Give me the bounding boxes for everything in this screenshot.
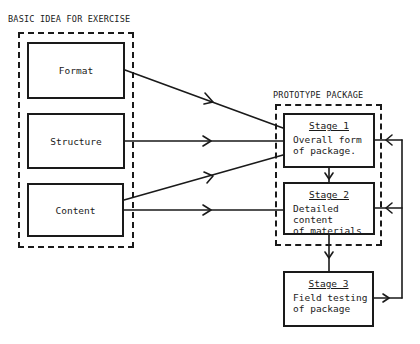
- connection-arrows: [0, 0, 420, 344]
